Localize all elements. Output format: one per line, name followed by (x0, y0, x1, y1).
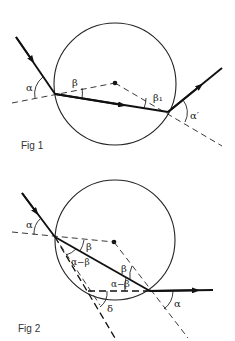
emergent-ray-arrow (168, 86, 200, 112)
incident-ray-arrow (22, 193, 36, 212)
alpha-label: α (26, 82, 33, 93)
alpha-minus-beta-arc (66, 249, 76, 255)
beta-label: β (72, 77, 78, 88)
alpha-minus-beta-label: α−β (71, 257, 90, 267)
incident-ray-arrow (16, 37, 32, 60)
incident-ray-extension (55, 237, 115, 338)
beta-label: β (86, 241, 92, 252)
internal-ray (55, 237, 150, 291)
alpha-angle-arc (35, 77, 43, 98)
alpha-minus-beta-exit-label: α−β (111, 279, 130, 289)
alpha-angle-arc (34, 218, 41, 235)
figure-2: α β α−β β α−β δ α Fig 2 (12, 180, 213, 338)
exit-normal-line (115, 83, 222, 146)
figure-2-caption: Fig 2 (18, 323, 41, 334)
alpha-label: α (26, 219, 33, 230)
alpha-exit-angle-arc (164, 291, 173, 309)
internal-ray-arrow (55, 94, 122, 105)
refraction-diagram: α β β₁ α′ Fig 1 α β (0, 0, 235, 341)
beta-internal-label: β (121, 263, 127, 274)
alpha-prime-label: α′ (190, 110, 200, 121)
figure-1-caption: Fig 1 (21, 140, 44, 151)
beta-internal-arc (130, 266, 132, 279)
beta1-label: β₁ (153, 92, 163, 103)
alpha-prime-angle-arc (183, 100, 187, 122)
beta-angle-arc (80, 240, 84, 251)
beta1-angle-arc (144, 98, 146, 108)
alpha-exit-label: α (174, 298, 181, 309)
figure-1: α β β₁ α′ Fig 1 (12, 23, 222, 151)
delta-label: δ (107, 303, 113, 314)
auxiliary-line (55, 237, 100, 305)
emergent-ray-arrow (150, 290, 196, 291)
